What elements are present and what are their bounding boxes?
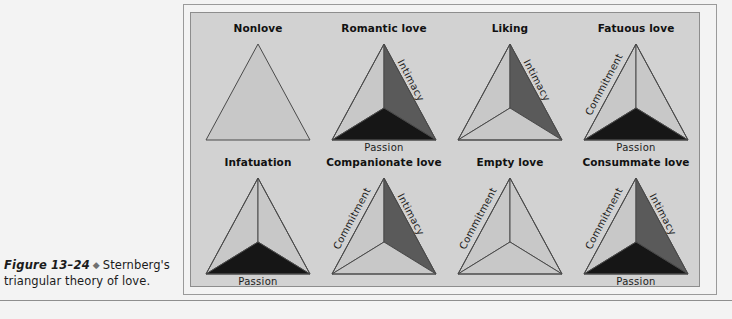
triangle-diagram-romantic-love: IntimacyPassion (322, 36, 446, 154)
triangle-cell-liking: LikingIntimacy (448, 22, 572, 154)
triangle-title-fatuous-love: Fatuous love (574, 22, 698, 34)
triangle-diagram-infatuation: Passion (196, 170, 320, 288)
figure-number: Figure 13–24 (4, 258, 90, 272)
triangle-diagram-nonlove (196, 36, 320, 154)
triangle-diagram-empty-love: Commitment (448, 170, 572, 288)
triangle-cell-empty-love: Empty loveCommitment (448, 156, 572, 288)
triangle-cell-nonlove: Nonlove (196, 22, 320, 154)
triangle-title-nonlove: Nonlove (196, 22, 320, 34)
triangle-body-nonlove (206, 44, 310, 140)
triangle-title-companionate-love: Companionate love (322, 156, 446, 168)
triangle-diagram-fatuous-love: CommitmentPassion (574, 36, 698, 154)
triangle-title-liking: Liking (448, 22, 572, 34)
figure-page: NonloveRomantic loveIntimacyPassionLikin… (0, 0, 732, 319)
base-label-passion-consummate-love: Passion (616, 276, 655, 287)
triangle-title-romantic-love: Romantic love (322, 22, 446, 34)
triangle-cell-fatuous-love: Fatuous loveCommitmentPassion (574, 22, 698, 154)
base-label-passion-infatuation: Passion (238, 276, 277, 287)
diamond-icon: ◆ (90, 260, 103, 270)
triangle-title-consummate-love: Consummate love (574, 156, 698, 168)
page-bottom-rule (0, 300, 732, 301)
triangle-diagram-liking: Intimacy (448, 36, 572, 154)
triangle-cell-infatuation: InfatuationPassion (196, 156, 320, 288)
triangle-title-empty-love: Empty love (448, 156, 572, 168)
triangle-title-infatuation: Infatuation (196, 156, 320, 168)
triangle-cell-companionate-love: Companionate loveIntimacyCommitment (322, 156, 446, 288)
triangle-cell-romantic-love: Romantic loveIntimacyPassion (322, 22, 446, 154)
base-label-passion-romantic-love: Passion (364, 142, 403, 153)
triangle-diagram-companionate-love: IntimacyCommitment (322, 170, 446, 288)
base-label-passion-fatuous-love: Passion (616, 142, 655, 153)
figure-caption: Figure 13–24◆Sternberg's triangular theo… (4, 258, 180, 289)
triangle-cell-consummate-love: Consummate loveIntimacyCommitmentPassion (574, 156, 698, 288)
triangle-diagram-consummate-love: IntimacyCommitmentPassion (574, 170, 698, 288)
